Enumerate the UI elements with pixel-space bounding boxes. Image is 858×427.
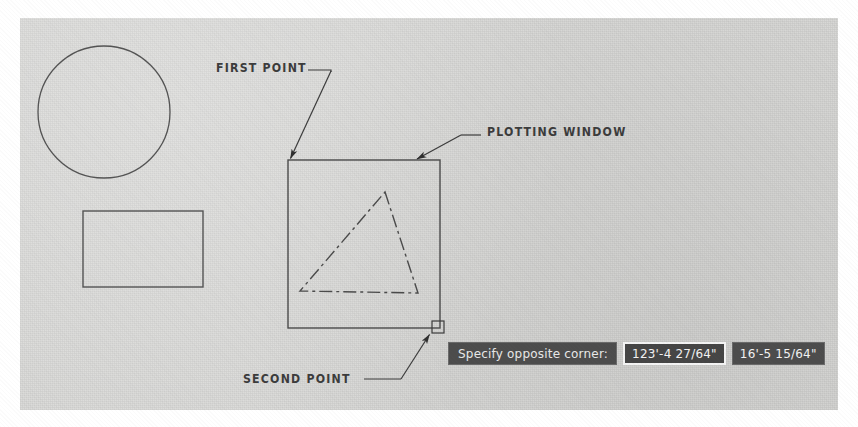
annotation-first-point: FIRST POINT [216, 62, 307, 76]
distance-x-field[interactable]: 123'-4 27/64" [623, 342, 726, 365]
dynamic-input-tooltip: Specify opposite corner: 123'-4 27/64" 1… [448, 342, 825, 365]
annotation-second-point: SECOND POINT [243, 373, 351, 387]
leader-second-point [364, 335, 430, 380]
command-prompt-label: Specify opposite corner: [448, 342, 617, 365]
distance-y-field[interactable]: 16'-5 15/64" [732, 342, 825, 365]
screenshot-root: FIRST POINT PLOTTING WINDOW SECOND POINT… [0, 0, 858, 427]
leader-first-point [291, 70, 332, 159]
leader-plotting-window [417, 135, 481, 159]
circle-entity [38, 46, 170, 178]
rectangle-entity [83, 211, 203, 287]
triangle-entity [300, 192, 418, 293]
selection-window-entity [288, 160, 440, 328]
annotation-plotting-window: PLOTTING WINDOW [487, 126, 627, 140]
pick-box-cursor[interactable] [432, 321, 444, 333]
